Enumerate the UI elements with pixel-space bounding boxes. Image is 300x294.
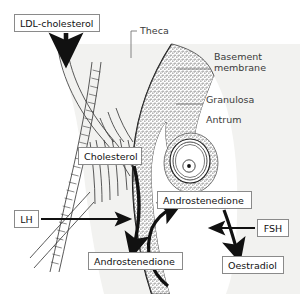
label-theca: Theca [140, 25, 169, 36]
label-basement-membrane-line1: Basement [214, 51, 262, 62]
oocyte [164, 133, 218, 193]
label-lh: LH [14, 210, 39, 228]
label-ldl-cholesterol: LDL-cholesterol [14, 14, 100, 32]
label-basement-membrane-line2: membrane [214, 62, 266, 73]
label-granulosa: Granulosa [206, 94, 254, 105]
label-fsh: FSH [257, 219, 289, 237]
follicle-diagram-svg [0, 0, 300, 294]
label-cholesterol: Cholesterol [78, 147, 142, 165]
label-androstenedione-theca: Androstenedione [88, 252, 183, 270]
label-androstenedione-granulosa: Androstenedione [157, 191, 252, 209]
diagram-canvas: LDL-cholesterol Cholesterol LH Androsten… [0, 0, 300, 294]
label-oestradiol: Oestradiol [222, 256, 284, 274]
label-antrum: Antrum [206, 114, 241, 125]
